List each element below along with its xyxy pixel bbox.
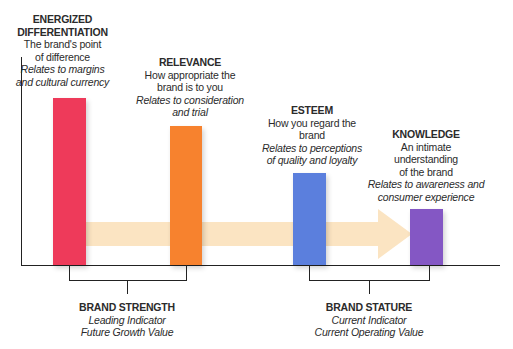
pillar-description: The brand's point — [0, 38, 125, 51]
group-line: Current Indicator — [304, 314, 434, 327]
pillar-title: ESTEEM — [252, 104, 372, 117]
pillar-description: brand is to you — [130, 81, 250, 94]
group-brand-stature: BRAND STATURE Current Indicator Current … — [304, 301, 434, 339]
group-line: Future Growth Value — [67, 326, 187, 339]
bar-relevance — [170, 126, 202, 265]
pillar-description: How you regard the — [252, 117, 372, 130]
pillar-title: ENERGIZED — [0, 13, 125, 26]
pillar-relation: and trial — [130, 106, 250, 119]
group-line: Leading Indicator — [67, 314, 187, 327]
bar-energized-differentiation — [53, 98, 86, 265]
pillar-relation: Relates to perceptions — [252, 142, 372, 155]
pillar-title: RELEVANCE — [130, 56, 250, 69]
group-line: Current Operating Value — [304, 326, 434, 339]
progression-arrow-icon — [86, 205, 426, 265]
label-knowledge: KNOWLEDGE An intimate understanding of t… — [360, 128, 492, 203]
group-title: BRAND STATURE — [304, 301, 434, 314]
pillar-title: KNOWLEDGE — [360, 128, 492, 141]
pillar-description: How appropriate the — [130, 69, 250, 82]
pillar-relation: Relates to consideration — [130, 94, 250, 107]
bar-esteem — [293, 173, 326, 265]
label-energized-differentiation: ENERGIZED DIFFERENTIATION The brand's po… — [0, 13, 125, 88]
pillar-description: of the brand — [360, 166, 492, 179]
label-relevance: RELEVANCE How appropriate the brand is t… — [130, 56, 250, 119]
pillar-description: understanding — [360, 153, 492, 166]
bar-knowledge — [410, 209, 443, 265]
y-axis — [21, 57, 22, 265]
pillar-relation: consumer experience — [360, 191, 492, 204]
pillar-relation: of quality and loyalty — [252, 154, 372, 167]
pillar-description: An intimate — [360, 141, 492, 154]
pillar-relation: Relates to awareness and — [360, 178, 492, 191]
group-brand-strength: BRAND STRENGTH Leading Indicator Future … — [67, 301, 187, 339]
label-esteem: ESTEEM How you regard the brand Relates … — [252, 104, 372, 167]
group-title: BRAND STRENGTH — [67, 301, 187, 314]
pillar-relation: Relates to margins — [0, 63, 125, 76]
pillar-description: brand — [252, 129, 372, 142]
pillar-description: of difference — [0, 51, 125, 64]
pillar-relation: and cultural currency — [0, 76, 125, 89]
pillar-title: DIFFERENTIATION — [0, 26, 125, 39]
